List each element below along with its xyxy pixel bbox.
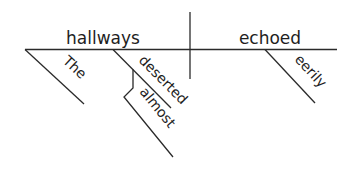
- predicate-word: echoed: [239, 28, 301, 48]
- sentence-diagram: hallways echoed The deserted almost eeri…: [0, 0, 357, 173]
- subject-word: hallways: [66, 28, 140, 48]
- article-word: The: [59, 52, 90, 82]
